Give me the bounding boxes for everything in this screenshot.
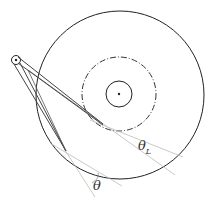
theta-label: θ: [93, 179, 101, 192]
diagram: θL θ: [0, 0, 213, 201]
tonearm-outer-3: [28, 70, 66, 151]
diagram-svg: [0, 0, 213, 201]
theta-L-symbol: θ: [138, 138, 146, 153]
theta-L-label: θL: [138, 139, 151, 156]
radial-line-outer: [63, 147, 95, 197]
tangent-line-inner: [90, 120, 183, 157]
radial-line-inner: [95, 118, 175, 175]
theta-L-subscript: L: [146, 147, 151, 156]
tonearm-inner-1: [18, 57, 103, 124]
tonearm-outer-1: [14, 64, 66, 151]
tangent-line-outer: [50, 143, 122, 186]
tonearm-inner-3: [28, 70, 100, 122]
pivot-dot: [15, 59, 17, 61]
spindle-dot: [118, 93, 120, 95]
